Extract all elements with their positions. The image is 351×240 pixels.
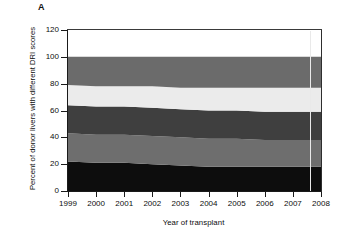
x-axis-title: Year of transplant <box>66 218 321 227</box>
y-tick-label: 60 <box>50 107 59 115</box>
x-tick <box>321 192 322 197</box>
figure-panel-a: A Percent of donor livers with different… <box>0 0 351 240</box>
x-tick-label: 2002 <box>137 199 167 208</box>
x-tick <box>237 192 238 197</box>
y-tick-label: 100 <box>46 53 59 61</box>
y-tick <box>61 30 67 31</box>
x-tick-label: 2007 <box>278 199 308 208</box>
x-tick-label: 2001 <box>109 199 139 208</box>
x-tick <box>124 192 125 197</box>
y-tick-label: 120 <box>46 26 59 34</box>
panel-label: A <box>38 2 45 12</box>
x-tick-label: 1999 <box>53 199 83 208</box>
vertical-marker-line <box>310 31 311 191</box>
y-tick-label: 80 <box>50 80 59 88</box>
x-tick <box>180 192 181 197</box>
y-tick <box>61 111 67 112</box>
y-tick-label: 20 <box>50 160 59 168</box>
x-tick <box>96 192 97 197</box>
x-tick-label: 2003 <box>165 199 195 208</box>
x-tick <box>68 192 69 197</box>
y-tick <box>61 84 67 85</box>
x-tick-label: 2000 <box>81 199 111 208</box>
stacked-area-series <box>68 30 321 191</box>
y-tick-label: 40 <box>50 133 59 141</box>
y-tick <box>61 137 67 138</box>
y-tick-label: 0 <box>55 187 59 195</box>
y-tick <box>61 164 67 165</box>
y-tick <box>61 191 67 192</box>
area-band-5 <box>68 57 321 88</box>
x-tick-label: 2006 <box>250 199 280 208</box>
x-tick <box>293 192 294 197</box>
x-tick <box>152 192 153 197</box>
plot-right-rule <box>321 30 322 192</box>
x-tick-label: 2005 <box>222 199 252 208</box>
y-tick <box>61 57 67 58</box>
y-axis-title: Percent of donor livers with different D… <box>28 14 37 204</box>
x-tick <box>209 192 210 197</box>
x-tick-label: 2008 <box>306 199 336 208</box>
x-tick <box>265 192 266 197</box>
x-tick-label: 2004 <box>194 199 224 208</box>
